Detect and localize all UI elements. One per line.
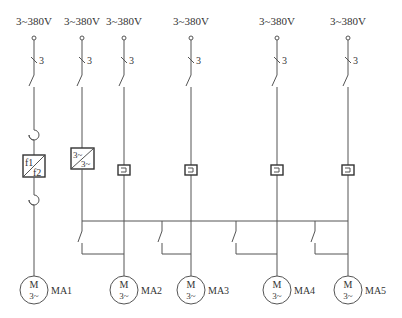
svg-text:3~: 3~ xyxy=(186,291,196,301)
relay-box xyxy=(185,165,197,175)
relay-box xyxy=(342,165,354,175)
switch-icon xyxy=(343,75,348,86)
svg-text:M: M xyxy=(344,279,353,290)
relay-box xyxy=(118,165,130,175)
bypass-switch-icon xyxy=(232,231,236,242)
motor-label-ma2: MA2 xyxy=(141,285,162,296)
branch-ma5: 3~380V 3 M 3~ MA5 xyxy=(311,15,386,304)
supply-label-1: 3~380V xyxy=(16,15,52,27)
bypass-switch-icon xyxy=(158,231,162,242)
svg-text:3: 3 xyxy=(129,55,134,66)
bypass-switch-icon xyxy=(78,231,82,242)
svg-text:3~: 3~ xyxy=(119,291,129,301)
branch-inverter: 3~380V 3 3~ 3~ xyxy=(64,15,100,221)
switch-icon xyxy=(186,75,191,86)
freq-f2: f2 xyxy=(33,167,41,178)
supply-label-6: 3~380V xyxy=(330,15,366,27)
supply-label-5: 3~380V xyxy=(259,15,295,27)
switch-icon xyxy=(119,75,124,86)
switch-icon xyxy=(77,75,82,86)
svg-text:3: 3 xyxy=(87,55,92,66)
svg-text:3~: 3~ xyxy=(29,291,39,301)
motor-label-ma4: MA4 xyxy=(294,285,315,296)
svg-text:3~: 3~ xyxy=(81,159,91,169)
supply-label-4: 3~380V xyxy=(173,15,209,27)
switch-icon xyxy=(29,75,34,86)
svg-text:M: M xyxy=(30,279,39,290)
switch-icon xyxy=(272,75,277,86)
pole-count-1: 3 xyxy=(39,55,44,66)
svg-text:M: M xyxy=(120,279,129,290)
terminal-icon xyxy=(80,36,84,40)
branch-ma4: 3~380V 3 M 3~ MA4 xyxy=(232,15,315,304)
coil-icon xyxy=(29,130,39,140)
motor-label-ma1: MA1 xyxy=(51,285,72,296)
motor-label-ma3: MA3 xyxy=(208,285,229,296)
bypass-switch-icon xyxy=(311,231,315,242)
supply-label-2: 3~380V xyxy=(64,15,100,27)
relay-box xyxy=(271,165,283,175)
svg-text:3~: 3~ xyxy=(272,291,282,301)
branch-ma1: 3~380V 3 f1 f2 M 3~ MA1 xyxy=(16,15,72,304)
svg-text:M: M xyxy=(187,279,196,290)
schematic-canvas: 3~380V 3 f1 f2 M 3~ MA1 3~380V 3 3~ 3~ xyxy=(0,0,402,318)
svg-text:3~: 3~ xyxy=(343,291,353,301)
svg-text:3: 3 xyxy=(282,55,287,66)
terminal-icon xyxy=(32,36,36,40)
supply-label-3: 3~380V xyxy=(106,15,142,27)
svg-text:3: 3 xyxy=(353,55,358,66)
coil-icon xyxy=(29,195,39,205)
svg-text:3: 3 xyxy=(196,55,201,66)
svg-text:M: M xyxy=(273,279,282,290)
branch-ma3: 3~380V 3 M 3~ MA3 xyxy=(158,15,229,304)
motor-label-ma5: MA5 xyxy=(365,285,386,296)
